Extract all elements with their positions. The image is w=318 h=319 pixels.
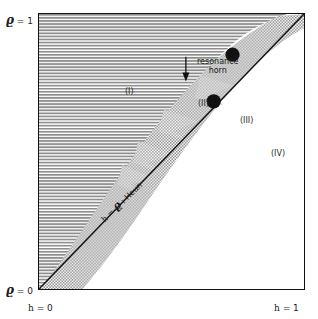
resonance-horn-annotation: resonance horn: [197, 58, 238, 76]
region-label-I: (I): [125, 88, 134, 97]
plot-clip: (I) (II) (III) (IV) resonance horn h = ϱ…: [39, 14, 304, 289]
rho-symbol: ϱ: [6, 13, 14, 27]
h-max-value: = 1: [280, 303, 299, 313]
axis-label-rho-min: ϱ = 0: [6, 281, 33, 297]
rho-min-value: = 0: [14, 286, 33, 296]
axis-label-h-max: h = 1: [274, 298, 299, 314]
euler-label: ϱ = 0: Euler: [190, 285, 243, 289]
region-label-IV: (IV): [271, 150, 285, 159]
plot-graphics: [39, 14, 304, 289]
rho-max-value: = 1: [14, 16, 33, 26]
region-label-II: (II): [198, 100, 209, 109]
rho-symbol: ϱ: [6, 283, 14, 297]
resonance-horn-line2: horn: [197, 67, 238, 76]
region-label-III: (III): [240, 117, 253, 126]
h-min-value: = 0: [34, 303, 53, 313]
figure-root: ϱ = 1 ϱ = 0 h = 0 h = 1: [0, 0, 318, 319]
axis-label-rho-max: ϱ = 1: [6, 11, 33, 27]
axis-label-h-min: h = 0: [28, 298, 53, 314]
plot-area: (I) (II) (III) (IV) resonance horn h = ϱ…: [38, 13, 305, 290]
